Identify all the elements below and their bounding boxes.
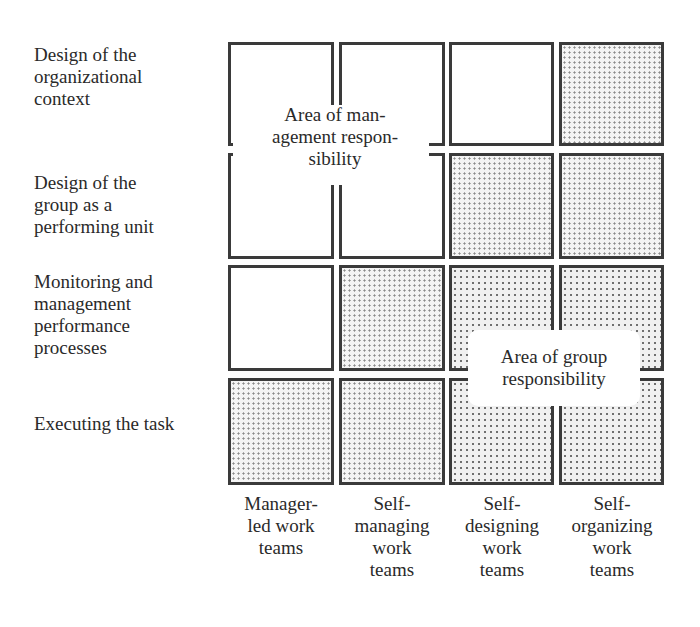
area-label-line: Area of man- — [240, 104, 430, 126]
cell-r1-c2-group — [449, 153, 554, 259]
row-label-line: performance — [34, 315, 224, 337]
row-label-organizational-context: Design of the organizational context — [34, 44, 224, 110]
row-label-line: Monitoring and — [34, 271, 224, 293]
col-label-line: teams — [336, 559, 448, 581]
col-label-line: work — [336, 537, 448, 559]
row-label-line: group as a — [34, 194, 224, 216]
col-label-line: Self- — [336, 493, 448, 515]
col-label-line: designing — [446, 515, 558, 537]
col-label-line: Self- — [556, 493, 668, 515]
col-label-line: led work — [225, 515, 337, 537]
col-label-line: work — [446, 537, 558, 559]
row-label-line: context — [34, 88, 224, 110]
area-label-line: responsibility — [468, 368, 640, 390]
row-label-line: Design of the — [34, 172, 224, 194]
area-label-line: Area of group — [468, 346, 640, 368]
row-label-line: Design of the — [34, 44, 224, 66]
col-label-line: Self- — [446, 493, 558, 515]
row-label-line: management — [34, 293, 224, 315]
row-label-line: processes — [34, 337, 224, 359]
col-label-line: teams — [556, 559, 668, 581]
row-label-monitoring: Monitoring and management performance pr… — [34, 271, 224, 359]
col-label-line: teams — [446, 559, 558, 581]
col-label-line: teams — [225, 537, 337, 559]
col-label-self-designing: Self- designing work teams — [446, 493, 558, 581]
row-label-line: Executing the task — [34, 413, 224, 435]
cell-r3-c0-group — [228, 378, 334, 485]
col-label-self-managing: Self- managing work teams — [336, 493, 448, 581]
col-label-line: work — [556, 537, 668, 559]
area-label-line: agement respon- — [240, 126, 430, 148]
row-label-executing: Executing the task — [34, 413, 224, 435]
group-responsibility-label: Area of group responsibility — [468, 330, 640, 406]
area-label-line: sibility — [240, 148, 430, 170]
row-label-line: performing unit — [34, 216, 224, 238]
cell-r2-c1-group — [339, 265, 445, 371]
cell-r0-c2-management — [449, 42, 554, 146]
management-responsibility-label: Area of man- agement respon- sibility — [240, 104, 430, 188]
cell-r1-c3-group — [559, 153, 664, 259]
col-label-line: organizing — [556, 515, 668, 537]
cell-r3-c1-group — [339, 378, 445, 485]
cell-r0-c3-group — [559, 42, 664, 146]
cell-r2-c0-management — [228, 265, 334, 371]
col-label-manager-led: Manager- led work teams — [225, 493, 337, 559]
row-label-group-design: Design of the group as a performing unit — [34, 172, 224, 238]
col-label-line: Manager- — [225, 493, 337, 515]
col-label-self-organizing: Self- organizing work teams — [556, 493, 668, 581]
row-label-line: organizational — [34, 66, 224, 88]
col-label-line: managing — [336, 515, 448, 537]
